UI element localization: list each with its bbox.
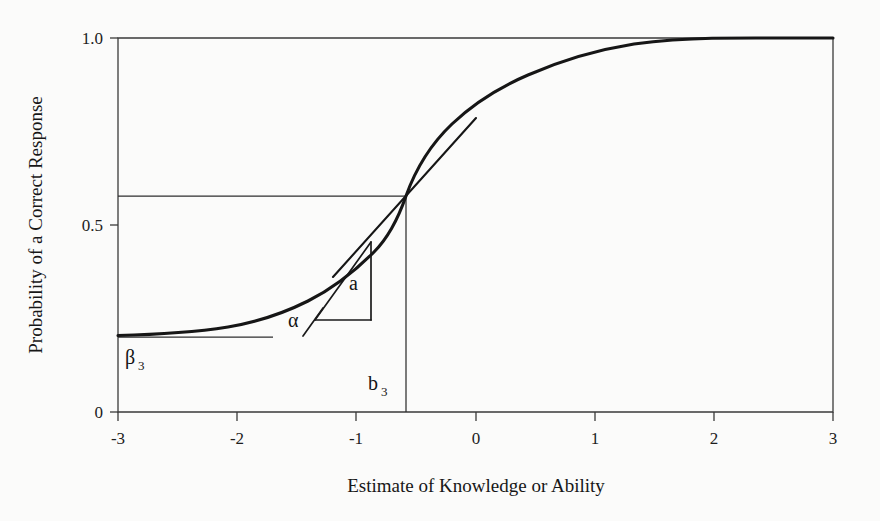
- b-symbol: b: [368, 372, 378, 394]
- angle-label: α: [288, 309, 299, 331]
- item-characteristic-curve-figure: 1.0 0.5 0 -3 -2 -1 0 1 2 3 Estimate of K…: [0, 0, 880, 521]
- difficulty-label: b 3: [368, 372, 388, 399]
- lower-asymptote-label: β 3: [125, 346, 145, 373]
- y-axis-tick-labels: 1.0 0.5 0: [82, 29, 103, 422]
- x-tick-label-3: 3: [829, 429, 838, 448]
- x-tick-label-1: 1: [591, 429, 600, 448]
- beta-symbol: β: [125, 346, 135, 369]
- x-axis-ticks: [118, 412, 833, 421]
- y-tick-label-1: 1.0: [82, 29, 103, 48]
- y-tick-label-0point5: 0.5: [82, 216, 103, 235]
- plot-frame-rect: [118, 38, 833, 412]
- figure-page: 1.0 0.5 0 -3 -2 -1 0 1 2 3 Estimate of K…: [0, 0, 880, 521]
- inflection-tangent-line: [333, 118, 476, 277]
- y-axis-ticks: [110, 38, 118, 412]
- x-tick-label-0: 0: [472, 429, 481, 448]
- b-subscript: 3: [381, 384, 388, 399]
- discrimination-label: a: [349, 272, 358, 294]
- x-tick-label-neg1: -1: [349, 429, 363, 448]
- angle-arm-line: [303, 308, 323, 336]
- x-axis-title: Estimate of Knowledge or Ability: [347, 475, 605, 496]
- plot-frame: [118, 38, 833, 412]
- y-axis-title: Probability of a Correct Response: [25, 96, 46, 354]
- y-tick-label-0: 0: [95, 403, 104, 422]
- icc-curve-path: [118, 38, 833, 336]
- x-tick-label-neg3: -3: [111, 429, 125, 448]
- beta-subscript: 3: [138, 358, 145, 373]
- x-tick-label-neg2: -2: [230, 429, 244, 448]
- x-tick-label-2: 2: [710, 429, 719, 448]
- x-axis-tick-labels: -3 -2 -1 0 1 2 3: [111, 429, 837, 448]
